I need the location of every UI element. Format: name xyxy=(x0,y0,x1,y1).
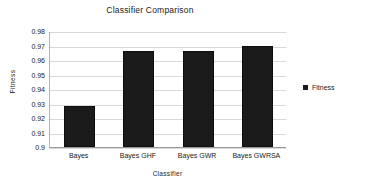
y-tick-label: 0.97 xyxy=(5,43,45,50)
x-tick-label: Bayes GHF xyxy=(108,152,167,159)
legend-label-fitness: Fitness xyxy=(312,84,335,91)
chart-title: Classifier Comparison xyxy=(0,5,300,15)
bar-bayes-gwr[interactable] xyxy=(183,51,214,147)
x-tick-label: Bayes xyxy=(49,152,108,159)
plot-area xyxy=(49,32,286,148)
y-tick-label: 0.98 xyxy=(5,28,45,35)
x-tick-label: Bayes GWR xyxy=(168,152,227,159)
x-axis-title: Classifier xyxy=(49,170,286,177)
bar-chart: Classifier Comparison 0.90.910.920.930.9… xyxy=(0,0,366,188)
bar-bayes-ghf[interactable] xyxy=(123,51,154,147)
y-tick-label: 0.92 xyxy=(5,115,45,122)
y-axis-title: Fitness xyxy=(9,59,16,105)
legend: Fitness xyxy=(303,84,335,91)
gridline xyxy=(50,148,286,149)
legend-swatch-fitness xyxy=(303,85,308,90)
gridline xyxy=(50,32,286,33)
y-tick-label: 0.91 xyxy=(5,130,45,137)
bar-bayes[interactable] xyxy=(64,106,95,147)
y-tick-label: 0.9 xyxy=(5,144,45,151)
x-tick-label: Bayes GWRSA xyxy=(227,152,286,159)
bar-bayes-gwrsa[interactable] xyxy=(242,46,273,147)
